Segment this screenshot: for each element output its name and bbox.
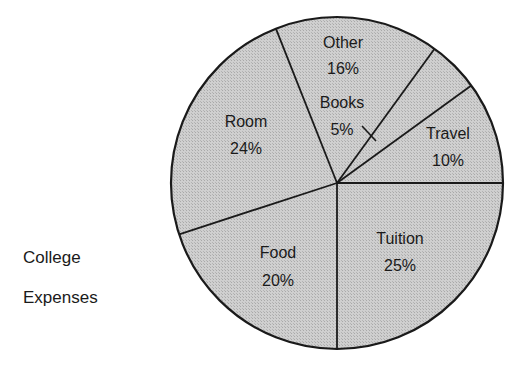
- slice-label-food: Food: [260, 244, 296, 261]
- slice-label-room: Room: [225, 113, 268, 130]
- chart-title-line-2: Expenses: [23, 289, 98, 306]
- pie-chart: Tuition25%Food20%Room24%Other16%Books5%T…: [0, 0, 523, 374]
- slice-value-books: 5%: [330, 121, 353, 138]
- pie-slice-tuition: [337, 183, 503, 349]
- slice-label-travel: Travel: [426, 125, 470, 142]
- slice-label-books: Books: [320, 94, 364, 111]
- slice-value-tuition: 25%: [384, 257, 416, 274]
- slice-label-tuition: Tuition: [376, 230, 423, 247]
- slice-value-travel: 10%: [432, 152, 464, 169]
- pie-chart-canvas: Tuition25%Food20%Room24%Other16%Books5%T…: [0, 0, 523, 374]
- slice-value-room: 24%: [230, 140, 262, 157]
- slice-value-food: 20%: [262, 272, 294, 289]
- slice-value-other: 16%: [327, 60, 359, 77]
- slice-label-other: Other: [323, 34, 364, 51]
- chart-title-line-1: College: [23, 249, 81, 266]
